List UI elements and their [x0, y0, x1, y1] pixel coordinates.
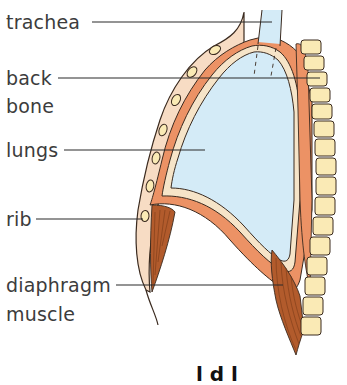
label-diaphragm-line1: diaphragm: [6, 272, 111, 298]
label-diaphragm-line2: muscle: [6, 301, 75, 327]
label-trachea: trachea: [6, 9, 80, 35]
label-backbone-line1: back: [6, 65, 52, 91]
label-backbone-line2: bone: [6, 93, 54, 119]
label-lungs: lungs: [6, 137, 58, 163]
label-rib: rib: [6, 206, 32, 232]
cropped-caption: l d l: [196, 362, 238, 385]
chest-skin-line: [146, 290, 158, 325]
